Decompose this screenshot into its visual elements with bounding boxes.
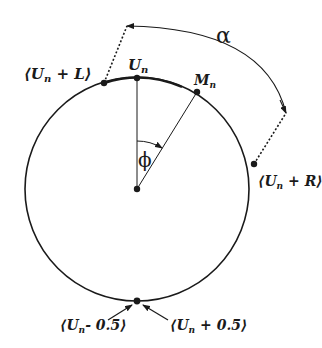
- dotted-line-right: [254, 113, 286, 164]
- point-un: [134, 75, 140, 81]
- label-phi: ϕ: [138, 148, 152, 172]
- label-un-plus-l: ⟨Un + L⟩: [24, 65, 92, 84]
- dotted-line-left: [104, 26, 127, 83]
- highlight-arc: [104, 78, 182, 87]
- label-un-plus-half: ⟨Un + 0.5⟩: [170, 317, 247, 335]
- point-un-plus-r: [251, 161, 257, 167]
- label-alpha: α: [216, 23, 231, 48]
- phi-angle-arc: [137, 141, 162, 148]
- point-bottom: [134, 298, 141, 305]
- point-mn: [194, 89, 200, 95]
- point-center: [134, 186, 140, 192]
- alpha-arc: [127, 26, 286, 113]
- label-un-plus-r: ⟨Un + R⟩: [258, 173, 322, 191]
- arrow-bottom-right: [143, 305, 168, 320]
- label-un: Un: [128, 56, 148, 75]
- label-mn: Mn: [193, 72, 216, 90]
- point-un-plus-l: [101, 80, 107, 86]
- circle-diagram: Un Mn ⟨Un + L⟩ ⟨Un + R⟩ ⟨Un- 0.5⟩ ⟨Un + …: [0, 0, 322, 348]
- radius-to-mn: [137, 92, 197, 189]
- label-un-minus-half: ⟨Un- 0.5⟩: [60, 317, 127, 335]
